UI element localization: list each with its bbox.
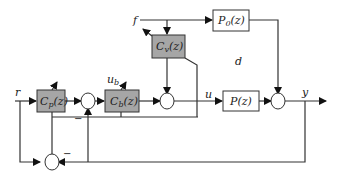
block-cb: Cb(z) [105,90,139,112]
wire-cv-adapt [185,58,197,117]
signal-u-label: u [205,88,212,101]
block-cv: Cv(z) [152,35,185,58]
svg-text:Cp(z): Cp(z) [40,95,68,109]
cv-adapt-arrow-icon [143,29,152,36]
wire-d [249,20,278,94]
svg-text:P0(z): P0(z) [217,14,245,28]
signal-d-label: d [235,55,242,68]
sum-junction-1 [81,93,95,109]
sum-junction-3 [271,93,285,109]
bottom-sum-minus-sign: − [63,148,71,159]
signal-r-label: r [15,86,21,99]
block-p: P(z) [223,91,259,111]
block-diagram: Cp(z) Cb(z) Cv(z) P(z) P0(z) r f d u y u… [0,0,340,181]
wire-y-feedback [58,101,305,162]
sum1-minus-sign: − [74,113,82,124]
sum-junction-2 [160,93,174,109]
svg-text:Cv(z): Cv(z) [156,40,183,54]
block-p0: P0(z) [213,10,249,31]
signal-f-label: f [132,14,139,27]
signal-ub-label: ub [107,73,119,87]
signal-y-label: y [301,86,309,99]
cb-adapt-arrow-icon [121,82,126,90]
sum-junction-bottom [45,154,59,170]
svg-text:Cb(z): Cb(z) [110,95,138,109]
cp-adapt-arrow-icon [52,82,57,90]
block-cp: Cp(z) [37,90,68,112]
svg-text:P(z): P(z) [229,95,252,108]
